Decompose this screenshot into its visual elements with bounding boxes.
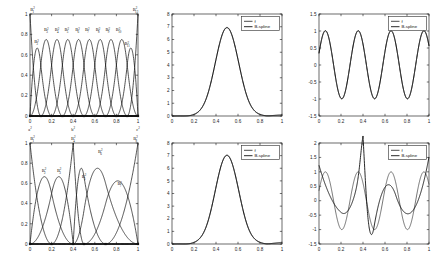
svg-text:0.6: 0.6 <box>382 247 389 252</box>
panel-top-left-basis: 00.20.40.60.81 00.20.40.60.81 B21B22B23B… <box>0 0 146 131</box>
approx-curves-top-right <box>319 31 429 99</box>
svg-text:5: 5 <box>167 179 170 184</box>
svg-text:0: 0 <box>314 63 317 68</box>
legend-top-middle: fB-spline <box>242 17 280 31</box>
svg-text:6: 6 <box>167 37 170 42</box>
plot-top-middle-bump: 00.20.40.60.81 012345678 fB-spline <box>146 0 293 131</box>
panel-bottom-right-sine: 00.20.40.60.81 -1.5-1-0.500.511.52 fB-sp… <box>293 131 440 261</box>
plot-top-left-basis: 00.20.40.60.81 00.20.40.60.81 B21B22B23B… <box>0 0 146 131</box>
approx-curves-bottom-middle <box>172 155 282 244</box>
svg-text:-0.5: -0.5 <box>309 80 317 85</box>
svg-text:0: 0 <box>318 247 321 252</box>
svg-text:1.5: 1.5 <box>310 155 317 160</box>
svg-text:-1: -1 <box>312 227 317 232</box>
svg-text:0.6: 0.6 <box>235 119 242 124</box>
svg-text:0: 0 <box>167 242 170 247</box>
svg-text:0.8: 0.8 <box>113 247 120 252</box>
legend-top-right: fB-spline <box>389 17 427 31</box>
svg-text:B24: B24 <box>55 27 60 35</box>
svg-text:7: 7 <box>167 24 170 29</box>
svg-text:6: 6 <box>167 166 170 171</box>
svg-text:0.8: 0.8 <box>257 119 264 124</box>
svg-text:B26: B26 <box>98 148 103 156</box>
svg-text:0.2: 0.2 <box>191 119 198 124</box>
svg-text:0: 0 <box>171 247 174 252</box>
plot-bottom-middle-bump: 00.20.40.60.81 012345678 fB-spline <box>146 131 293 261</box>
plot-top-right-sine: 00.20.40.60.81 -1.5-1-0.500.511.5 fB-spl… <box>293 0 440 131</box>
svg-text:0.2: 0.2 <box>191 247 198 252</box>
svg-text:0.8: 0.8 <box>257 247 264 252</box>
svg-text:0.2: 0.2 <box>338 247 345 252</box>
svg-text:0.2: 0.2 <box>338 119 345 124</box>
panel-top-right-sine: 00.20.40.60.81 -1.5-1-0.500.511.5 fB-spl… <box>293 0 440 131</box>
svg-text:0: 0 <box>25 114 28 119</box>
svg-text:B26: B26 <box>75 27 80 35</box>
svg-text:B29: B29 <box>106 27 111 35</box>
svg-text:0.6: 0.6 <box>21 53 28 58</box>
svg-text:B210: B210 <box>116 27 122 35</box>
svg-text:B-spline: B-spline <box>255 24 271 29</box>
svg-text:B27: B27 <box>85 27 90 35</box>
svg-text:0: 0 <box>167 114 170 119</box>
svg-text:0.5: 0.5 <box>310 184 317 189</box>
svg-text:2: 2 <box>167 88 170 93</box>
svg-text:B28: B28 <box>96 27 101 35</box>
svg-text:B25: B25 <box>82 173 87 181</box>
panel-top-middle-bump: 00.20.40.60.81 012345678 fB-spline <box>146 0 293 131</box>
svg-text:1: 1 <box>167 101 170 106</box>
basis-curves-bottom-left <box>30 143 138 244</box>
svg-text:1: 1 <box>25 141 28 146</box>
svg-text:1: 1 <box>314 29 317 34</box>
legend-bottom-middle: fB-spline <box>242 146 280 160</box>
panel-bottom-left-basis: 00.20.40.60.81 00.20.40.60.81 B21B22B23B… <box>0 131 146 261</box>
svg-text:5: 5 <box>167 50 170 55</box>
svg-text:0: 0 <box>171 119 174 124</box>
svg-text:B21: B21 <box>30 135 35 143</box>
svg-text:B25: B25 <box>64 27 69 35</box>
svg-text:0.8: 0.8 <box>21 32 28 37</box>
svg-text:0.4: 0.4 <box>213 119 220 124</box>
svg-text:0: 0 <box>29 247 32 252</box>
svg-text:0.2: 0.2 <box>48 119 55 124</box>
svg-text:1.5: 1.5 <box>310 12 317 17</box>
svg-text:8: 8 <box>167 12 170 17</box>
svg-text:1: 1 <box>281 247 284 252</box>
svg-text:8: 8 <box>167 141 170 146</box>
svg-text:1: 1 <box>167 229 170 234</box>
svg-text:3: 3 <box>167 75 170 80</box>
svg-text:B23: B23 <box>57 167 62 175</box>
svg-text:-1.5: -1.5 <box>309 242 317 247</box>
svg-text:7: 7 <box>167 153 170 158</box>
svg-text:1: 1 <box>428 247 431 252</box>
yaxis-ticks-bottom-left: 00.20.40.60.81 <box>21 141 138 247</box>
svg-text:4: 4 <box>167 191 170 196</box>
svg-text:B28: B28 <box>133 135 138 143</box>
svg-text:B21: B21 <box>30 6 35 14</box>
plot-bottom-left-basis: 00.20.40.60.81 00.20.40.60.81 B21B22B23B… <box>0 131 146 261</box>
svg-text:B-spline: B-spline <box>255 153 271 158</box>
svg-text:2: 2 <box>314 141 317 146</box>
svg-text:0.2: 0.2 <box>21 93 28 98</box>
svg-text:0: 0 <box>25 242 28 247</box>
svg-text:0.6: 0.6 <box>92 247 99 252</box>
svg-text:1: 1 <box>25 12 28 17</box>
svg-text:0: 0 <box>318 119 321 124</box>
svg-text:B22: B22 <box>34 39 39 47</box>
svg-text:1: 1 <box>428 119 431 124</box>
svg-text:0.5: 0.5 <box>310 46 317 51</box>
svg-text:0.8: 0.8 <box>404 247 411 252</box>
svg-text:0.4: 0.4 <box>213 247 220 252</box>
svg-text:0.4: 0.4 <box>70 247 77 252</box>
svg-text:-1: -1 <box>312 97 317 102</box>
svg-text:4: 4 <box>167 63 170 68</box>
svg-text:B212: B212 <box>133 6 139 14</box>
svg-text:0.8: 0.8 <box>404 119 411 124</box>
svg-text:0.6: 0.6 <box>235 247 242 252</box>
svg-text:0.6: 0.6 <box>21 181 28 186</box>
svg-text:B23: B23 <box>44 27 49 35</box>
plot-bottom-right-sine: 00.20.40.60.81 -1.5-1-0.500.511.52 fB-sp… <box>293 131 440 261</box>
svg-text:0.6: 0.6 <box>92 119 99 124</box>
svg-text:0.6: 0.6 <box>382 119 389 124</box>
legend-bottom-right: fB-spline <box>389 146 427 160</box>
svg-text:2: 2 <box>167 216 170 221</box>
